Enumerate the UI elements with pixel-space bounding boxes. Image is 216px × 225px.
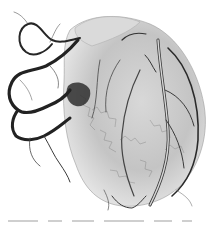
heart-illustration xyxy=(0,0,216,225)
heart-vasculature-image xyxy=(0,0,216,225)
heart-body xyxy=(64,16,206,206)
caption-fragment-cutoff: cut off at bottom edge; text not legible xyxy=(8,220,208,225)
caption-text: cut off at bottom edge; text not legible xyxy=(202,220,203,222)
